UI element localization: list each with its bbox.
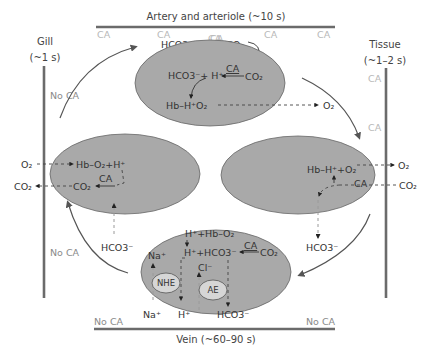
right-cell-enzyme: CA — [354, 178, 368, 189]
bottom-cell-enzyme: CA — [244, 240, 258, 251]
gill-no-ca-mark: No CA — [50, 90, 80, 101]
artery-ca-mark: CA — [317, 29, 331, 40]
na-inside: Na⁺ — [148, 250, 166, 261]
vein-no-ca-mark: No CA — [306, 316, 336, 327]
vein-vessel: Vein (~60–90 s) No CA No CA — [94, 316, 336, 345]
hb-proton-oxygen: Hb–H⁺O₂ — [166, 100, 208, 111]
left-red-cell: O₂ Hb–O₂+H⁺ CA CO₂ CO₂ HCO3⁻ — [14, 134, 200, 253]
nhe-transporter: NHE — [152, 273, 180, 293]
ae-transporter: AE — [199, 280, 227, 300]
artery-ca-mark: CA — [97, 29, 111, 40]
ae-label: AE — [207, 285, 218, 295]
inner-reaction-left: HCO3⁻+ H⁺ — [168, 70, 223, 81]
artery-ca-mark: CA — [264, 29, 278, 40]
cl-ion: Cl⁻ — [198, 262, 212, 273]
gill-label: Gill — [37, 36, 53, 47]
vein-label: Vein (~60–90 s) — [176, 334, 256, 345]
left-cell-enzyme: CA — [99, 173, 113, 184]
vein-no-ca-mark: No CA — [94, 316, 124, 327]
gill-no-ca-mark: No CA — [50, 247, 80, 258]
left-cell-co2: CO₂ — [73, 181, 91, 192]
nhe-label: NHE — [157, 278, 175, 288]
bottom-cell-co2: CO₂ — [260, 247, 278, 258]
bottom-hb-line: H⁺+Hb–O₂ — [185, 228, 235, 239]
gill-time: (~1 s) — [30, 52, 61, 63]
na-outside: Na⁺ — [143, 309, 161, 320]
gill-o2-in: O₂ — [21, 159, 32, 170]
h-outside: H⁺ — [178, 309, 190, 320]
bottom-h-hco3: H⁺+HCO3⁻ — [184, 247, 236, 258]
gill-co2-out: CO₂ — [14, 181, 32, 192]
hco3-outside: HCO3⁻ — [217, 309, 249, 320]
o2-release: O₂ — [323, 100, 334, 111]
tissue-time: (~1–2 s) — [364, 55, 406, 66]
tissue-o2-out: O₂ — [398, 160, 409, 171]
circulation-arrow-gill-to-artery — [60, 47, 135, 118]
tissue-label: Tissue — [368, 39, 401, 50]
blood-co2-o2-transport-diagram: Artery and arteriole (~10 s) CA CA CA CA… — [0, 0, 425, 357]
hb-oxygenation: Hb–O₂+H⁺ — [76, 159, 125, 170]
tissue-ca-mark: CA — [368, 73, 382, 84]
inner-reaction-enzyme: CA — [226, 63, 240, 74]
hb-deoxygenation: Hb–H⁺+O₂ — [307, 164, 357, 175]
hco3-out-of-right-cell: HCO3⁻ — [306, 242, 338, 253]
inner-reaction-right: CO₂ — [245, 71, 263, 82]
hco3-into-left-cell: HCO3⁻ — [101, 242, 133, 253]
tissue-ca-mark: CA — [368, 122, 382, 133]
bottom-red-cell: H⁺+Hb–O₂ H⁺+HCO3⁻ CA CO₂ Na⁺ Cl⁻ NHE AE … — [141, 228, 291, 320]
artery-label: Artery and arteriole (~10 s) — [147, 11, 286, 22]
tissue-co2-in: CO₂ — [399, 180, 417, 191]
